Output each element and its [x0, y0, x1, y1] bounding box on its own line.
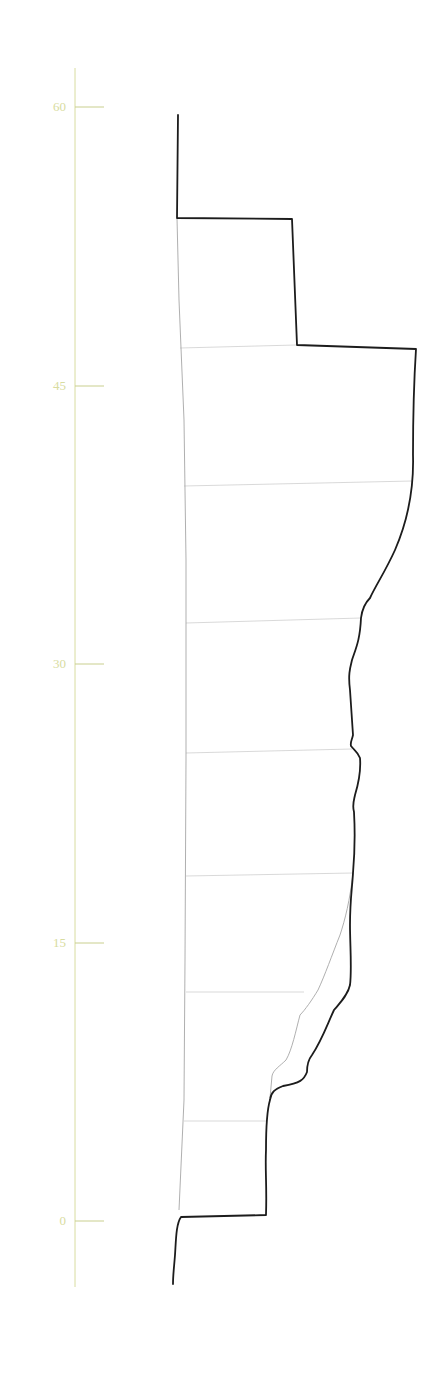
section-lines: [180, 345, 412, 1121]
tick-label-0: 0: [26, 1214, 66, 1228]
outer-profile-line: [173, 115, 416, 1284]
tick-label-30: 30: [26, 657, 66, 671]
profile-diagram: [0, 0, 446, 1382]
tick-label-45: 45: [26, 379, 66, 393]
tick-label-15: 15: [26, 936, 66, 950]
tick-label-60: 60: [26, 100, 66, 114]
inner-profile-line: [177, 218, 353, 1210]
